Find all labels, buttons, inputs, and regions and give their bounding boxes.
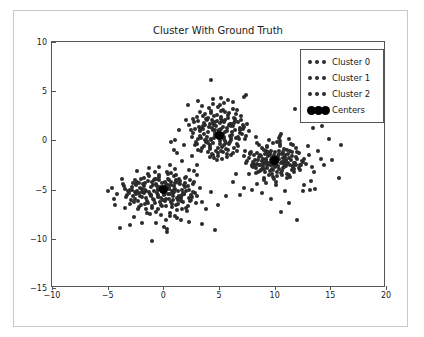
scatter-point xyxy=(252,153,256,157)
scatter-point xyxy=(195,173,199,177)
scatter-point xyxy=(192,180,196,184)
scatter-point xyxy=(190,135,194,139)
x-tick-label: −5 xyxy=(102,291,114,300)
scatter-point xyxy=(148,192,152,196)
scatter-point xyxy=(135,169,139,173)
scatter-point xyxy=(182,192,186,196)
cluster-center-marker xyxy=(270,156,279,165)
scatter-point xyxy=(245,159,249,163)
scatter-point xyxy=(147,166,151,170)
scatter-point xyxy=(322,163,326,167)
x-tick xyxy=(219,286,220,290)
scatter-point xyxy=(190,154,194,158)
scatter-point xyxy=(301,189,305,193)
scatter-point xyxy=(235,108,239,112)
scatter-point xyxy=(244,93,248,97)
y-tick xyxy=(52,42,56,43)
scatter-point xyxy=(267,138,271,142)
x-tick-label: 15 xyxy=(325,291,335,300)
scatter-point xyxy=(247,129,251,133)
legend-marker-icon xyxy=(306,104,332,116)
scatter-point xyxy=(271,168,275,172)
scatter-point xyxy=(233,128,237,132)
scatter-point xyxy=(245,122,249,126)
scatter-point xyxy=(169,140,173,144)
x-tick xyxy=(275,286,276,290)
scatter-point xyxy=(339,143,343,147)
scatter-point xyxy=(175,151,179,155)
scatter-point xyxy=(219,96,223,100)
scatter-point xyxy=(208,155,212,159)
scatter-point xyxy=(234,172,238,176)
matplotlib-figure: Cluster With Ground Truth −10−505101520−… xyxy=(0,0,424,337)
x-tick xyxy=(330,286,331,290)
scatter-point xyxy=(219,149,223,153)
scatter-point xyxy=(150,239,154,243)
scatter-point xyxy=(302,183,306,187)
scatter-point xyxy=(163,199,167,203)
scatter-point xyxy=(278,139,282,143)
scatter-point xyxy=(202,132,206,136)
scatter-point xyxy=(182,143,186,147)
scatter-point xyxy=(294,155,298,159)
scatter-point xyxy=(256,170,260,174)
scatter-point xyxy=(196,99,200,103)
scatter-point xyxy=(242,154,246,158)
scatter-point xyxy=(154,221,158,225)
scatter-point xyxy=(193,143,197,147)
scatter-point xyxy=(278,134,282,138)
scatter-point xyxy=(265,144,269,148)
scatter-point xyxy=(330,158,334,162)
scatter-point xyxy=(159,213,163,217)
scatter-point xyxy=(304,162,308,166)
y-tick xyxy=(52,288,56,289)
scatter-point xyxy=(139,203,143,207)
scatter-point xyxy=(180,159,184,163)
scatter-point xyxy=(134,182,138,186)
scatter-point xyxy=(188,199,192,203)
scatter-point xyxy=(211,102,215,106)
scatter-point xyxy=(279,210,283,214)
scatter-point xyxy=(310,165,314,169)
scatter-point xyxy=(253,158,257,162)
scatter-point xyxy=(239,118,243,122)
scatter-point xyxy=(136,207,140,211)
scatter-point xyxy=(306,144,310,148)
scatter-point xyxy=(206,141,210,145)
scatter-point xyxy=(225,152,229,156)
scatter-point xyxy=(287,201,291,205)
scatter-point xyxy=(259,154,263,158)
legend-label: Centers xyxy=(332,105,365,115)
scatter-point xyxy=(255,182,259,186)
scatter-point xyxy=(112,197,116,201)
scatter-point xyxy=(113,203,117,207)
scatter-point xyxy=(156,193,160,197)
legend-box: Cluster 0Cluster 1Cluster 2Centers xyxy=(300,49,384,123)
scatter-point xyxy=(229,153,233,157)
scatter-point xyxy=(271,141,275,145)
scatter-point xyxy=(283,189,287,193)
scatter-point xyxy=(198,186,202,190)
scatter-point xyxy=(174,180,178,184)
scatter-point xyxy=(157,165,161,169)
x-tick-label: 0 xyxy=(161,291,166,300)
scatter-point xyxy=(288,175,292,179)
y-tick xyxy=(52,140,56,141)
scatter-point xyxy=(200,104,204,108)
legend-marker-icon xyxy=(306,88,332,100)
scatter-point xyxy=(284,164,288,168)
scatter-point xyxy=(223,139,227,143)
legend-label: Cluster 1 xyxy=(332,73,370,83)
legend-marker-icon xyxy=(306,72,332,84)
scatter-point xyxy=(235,142,239,146)
scatter-point xyxy=(186,103,190,107)
scatter-point xyxy=(128,223,132,227)
scatter-point xyxy=(287,137,291,141)
scatter-point xyxy=(227,111,231,115)
legend-entry: Centers xyxy=(306,102,378,118)
scatter-point xyxy=(166,172,170,176)
scatter-point xyxy=(196,137,200,141)
y-tick-label: −10 xyxy=(30,234,47,243)
y-tick xyxy=(52,239,56,240)
scatter-point xyxy=(120,177,124,181)
